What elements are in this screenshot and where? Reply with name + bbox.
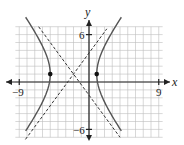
x-tick-min: −9	[12, 86, 24, 98]
hyperbola-graph: x y −9 9 6 −6	[0, 0, 184, 145]
y-tick-min: −6	[73, 124, 85, 136]
x-axis-label: x	[171, 75, 178, 89]
y-axis-label: y	[84, 5, 91, 19]
x-tick-max: 9	[156, 86, 162, 98]
y-tick-max: 6	[79, 29, 85, 41]
